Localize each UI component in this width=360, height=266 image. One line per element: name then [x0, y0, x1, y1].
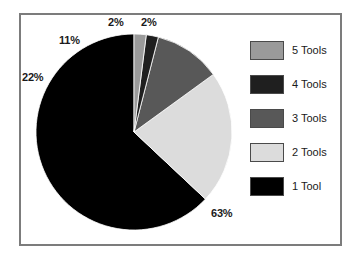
pie-slice-group: [36, 34, 232, 230]
legend-item-label: 2 Tools: [292, 147, 327, 158]
slice-label-4-tools: 2%: [108, 17, 124, 28]
legend-item-4-tools[interactable]: 4 Tools: [250, 67, 338, 101]
legend-item-label: 3 Tools: [292, 113, 327, 124]
legend-swatch-icon: [250, 143, 284, 162]
slice-label-3-tools: 11%: [59, 35, 80, 46]
legend-item-3-tools[interactable]: 3 Tools: [250, 101, 338, 135]
legend-swatch-icon: [250, 75, 284, 94]
plot-area: 63% 22% 11% 2% 2% 5 Tools4 Tools3 Tools2…: [21, 15, 340, 244]
slice-label-2-tools: 22%: [22, 72, 43, 83]
legend-item-2-tools[interactable]: 2 Tools: [250, 135, 338, 169]
legend-item-label: 1 Tool: [292, 181, 321, 192]
chart-legend: 5 Tools4 Tools3 Tools2 Tools1 Tool: [250, 33, 338, 203]
pie-chart-figure: 63% 22% 11% 2% 2% 5 Tools4 Tools3 Tools2…: [0, 0, 360, 266]
legend-item-label: 4 Tools: [292, 79, 327, 90]
slice-label-1-tool: 63%: [211, 208, 232, 219]
chart-frame: 63% 22% 11% 2% 2% 5 Tools4 Tools3 Tools2…: [19, 13, 342, 246]
legend-item-5-tools[interactable]: 5 Tools: [250, 33, 338, 67]
pie-chart: [35, 33, 233, 231]
legend-swatch-icon: [250, 41, 284, 60]
legend-swatch-icon: [250, 109, 284, 128]
legend-item-1-tool[interactable]: 1 Tool: [250, 169, 338, 203]
legend-swatch-icon: [250, 177, 284, 196]
slice-label-5-tools: 2%: [141, 17, 157, 28]
legend-item-label: 5 Tools: [292, 45, 327, 56]
